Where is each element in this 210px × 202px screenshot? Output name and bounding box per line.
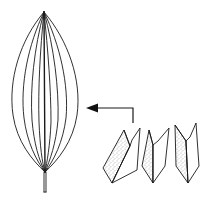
leaf-petiole bbox=[44, 172, 46, 192]
folded-section-3 bbox=[175, 123, 199, 183]
figure-canvas bbox=[0, 0, 210, 202]
leaf-vein bbox=[32, 12, 46, 172]
botanical-illustration bbox=[0, 0, 210, 202]
arrow-shaft bbox=[97, 108, 133, 123]
leaf-margin-left bbox=[12, 12, 45, 172]
arrow-head-icon bbox=[86, 104, 98, 113]
leaf-vein bbox=[44, 12, 67, 172]
folded-section-2 bbox=[142, 128, 169, 183]
leaf-midrib bbox=[44, 12, 45, 172]
folded-section-plain-face bbox=[153, 128, 169, 183]
leaf-drawing bbox=[12, 12, 78, 192]
arrow bbox=[86, 104, 133, 124]
folded-section-1 bbox=[103, 128, 140, 183]
